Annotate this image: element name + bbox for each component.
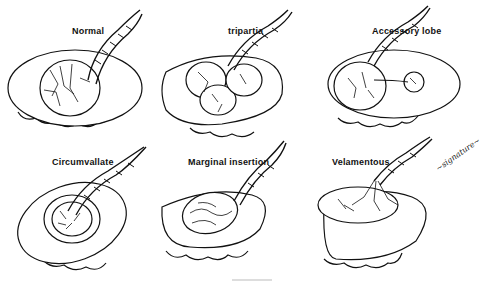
placenta-tripartia-drawing xyxy=(162,0,324,141)
panel-accessory-lobe: Accessory lobe xyxy=(324,0,486,132)
panel-circumvallate: Circumvallate xyxy=(0,141,162,273)
placenta-circumvallate-drawing xyxy=(0,141,162,282)
placenta-velamentous-drawing xyxy=(324,141,486,282)
panel-marginal-insertion: Marginal insertion xyxy=(162,141,324,273)
panel-normal: Normal xyxy=(0,0,162,132)
panel-velamentous: Velamentous xyxy=(324,141,486,273)
caption-cutoff xyxy=(232,276,272,282)
panel-tripartia: tripartia xyxy=(162,0,324,132)
placenta-normal-drawing xyxy=(0,0,162,141)
placenta-marginal-insertion-drawing xyxy=(162,141,324,282)
placenta-variants-figure: Normal tripartia xyxy=(0,0,486,282)
placenta-accessory-lobe-drawing xyxy=(324,0,486,141)
